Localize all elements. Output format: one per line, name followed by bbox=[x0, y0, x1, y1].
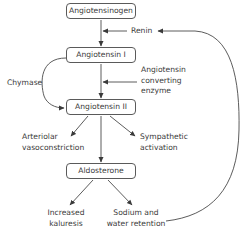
label-renin: Renin bbox=[131, 26, 152, 37]
label-ace: Angiotensin converting enzyme bbox=[141, 65, 186, 97]
label-sympathetic-line1: Sympathetic bbox=[140, 132, 188, 143]
label-ace-line1: Angiotensin bbox=[141, 65, 186, 76]
node-aldosterone: Aldosterone bbox=[66, 163, 136, 179]
label-sodium-line1: Sodium and bbox=[106, 208, 166, 219]
label-sympathetic-line2: activation bbox=[140, 143, 188, 154]
diagram-connectors bbox=[0, 0, 243, 238]
arrow-to-kaluresis bbox=[70, 180, 93, 205]
arrow-to-sodium bbox=[108, 180, 132, 205]
node-angiotensin-1: Angiotensin I bbox=[66, 47, 136, 63]
label-arteriolar-line2: vasoconstriction bbox=[22, 143, 84, 154]
arrow-to-sympathetic bbox=[110, 116, 135, 136]
label-arteriolar-vasoconstriction: Arteriolar vasoconstriction bbox=[22, 132, 84, 153]
node-angiotensin-2: Angiotensin II bbox=[66, 99, 136, 115]
arrow-feedback-to-renin bbox=[158, 31, 239, 221]
label-sodium-water-retention: Sodium and water retention bbox=[106, 208, 166, 229]
label-chymase: Chymase bbox=[7, 78, 42, 89]
label-kaluresis-line2: kaluresis bbox=[46, 219, 86, 230]
label-sodium-line2: water retention bbox=[106, 219, 166, 230]
label-ace-line3: enzyme bbox=[141, 86, 186, 97]
label-arteriolar-line1: Arteriolar bbox=[22, 132, 84, 143]
label-kaluresis-line1: Increased bbox=[46, 208, 86, 219]
label-increased-kaluresis: Increased kaluresis bbox=[46, 208, 86, 229]
arrow-chymase bbox=[42, 58, 66, 108]
label-ace-line2: converting bbox=[141, 76, 186, 87]
label-sympathetic-activation: Sympathetic activation bbox=[140, 132, 188, 153]
node-angiotensinogen: Angiotensinogen bbox=[66, 3, 136, 19]
